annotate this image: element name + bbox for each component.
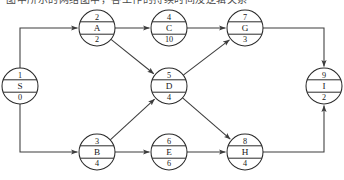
edge-g-to-i: [263, 28, 324, 67]
node-duration-h: 4: [243, 159, 247, 168]
node-duration-c: 10: [165, 35, 173, 44]
node-label-g: G: [242, 23, 249, 33]
node-label-a: A: [94, 23, 101, 33]
edge-d-to-h: [183, 98, 231, 139]
node-duration-d: 4: [167, 93, 171, 102]
node-number-d: 5: [167, 71, 171, 80]
node-d[interactable]: 5D4: [151, 68, 187, 104]
node-label-b: B: [94, 147, 100, 157]
node-c[interactable]: 4C10: [151, 10, 187, 46]
node-number-b: 3: [95, 137, 99, 146]
node-number-e: 6: [167, 137, 171, 146]
node-duration-i: 2: [322, 93, 326, 102]
node-label-e: E: [166, 147, 172, 157]
node-label-d: D: [166, 81, 173, 91]
node-label-s: S: [17, 81, 22, 91]
node-g[interactable]: 7G3: [227, 10, 263, 46]
node-label-i: I: [322, 81, 325, 91]
node-label-h: H: [242, 147, 249, 157]
node-number-i: 9: [322, 71, 326, 80]
node-a[interactable]: 2A2: [79, 10, 115, 46]
node-number-g: 7: [243, 13, 247, 22]
edge-a-to-d: [111, 39, 154, 73]
network-diagram: 图中所示的网络图中，各工作的持续时间及逻辑关系 1S02A24C107G35D4…: [0, 0, 344, 180]
node-number-c: 4: [167, 13, 171, 22]
node-s[interactable]: 1S0: [2, 68, 38, 104]
edge-s-to-b: [20, 104, 78, 152]
edge-b-to-d: [110, 99, 154, 140]
edge-s-to-a: [20, 28, 78, 68]
node-number-h: 8: [243, 137, 247, 146]
node-duration-g: 3: [243, 35, 247, 44]
network-svg-canvas: 1S02A24C107G35D49I23B46E68H4: [0, 0, 344, 180]
edge-d-to-g: [183, 40, 229, 75]
node-duration-a: 2: [95, 35, 99, 44]
node-duration-e: 6: [167, 159, 171, 168]
node-duration-s: 0: [18, 93, 22, 102]
node-number-a: 2: [95, 13, 99, 22]
node-i[interactable]: 9I2: [306, 68, 342, 104]
node-b[interactable]: 3B4: [79, 134, 115, 170]
node-label-c: C: [166, 23, 172, 33]
node-e[interactable]: 6E6: [151, 134, 187, 170]
edge-h-to-i: [263, 106, 324, 153]
node-number-s: 1: [18, 71, 22, 80]
node-duration-b: 4: [95, 159, 99, 168]
node-h[interactable]: 8H4: [227, 134, 263, 170]
nodes-layer: 1S02A24C107G35D49I23B46E68H4: [2, 10, 342, 170]
